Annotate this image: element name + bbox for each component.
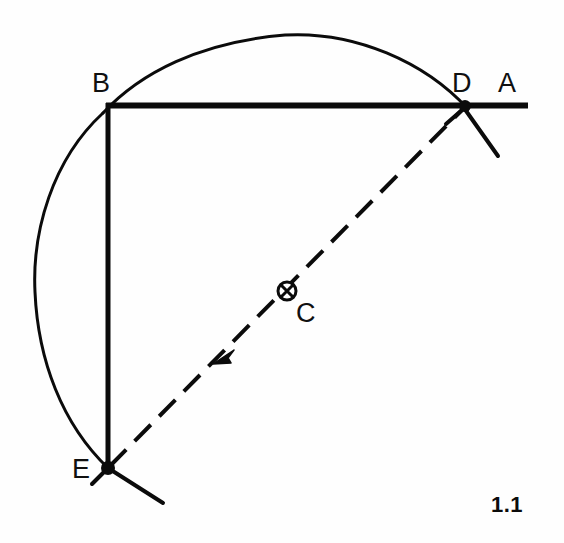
point-label-b: B [92, 70, 110, 97]
figure-number: 1.1 [491, 494, 523, 516]
construction-arc-upper [103, 35, 468, 113]
point-label-a: A [498, 70, 516, 97]
point-marker-d [459, 100, 471, 112]
figure-canvas: B D A C E 1.1 [0, 0, 564, 543]
point-label-c: C [296, 300, 316, 327]
arc-tail-at-d [464, 108, 498, 156]
arc-tail-at-e [108, 468, 163, 503]
point-label-e: E [72, 456, 90, 483]
point-marker-e [101, 461, 115, 475]
point-label-d: D [452, 70, 472, 97]
construction-arc [35, 113, 108, 468]
